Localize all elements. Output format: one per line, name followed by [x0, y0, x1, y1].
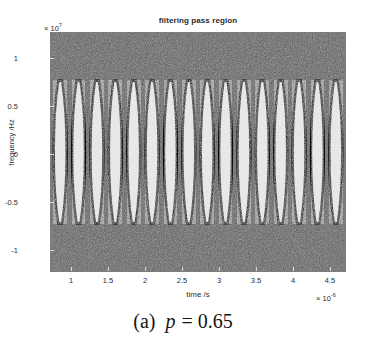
x-tick-mark-35	[256, 267, 257, 271]
plot-area	[50, 32, 346, 272]
x-tick-label-45: 4.5	[325, 276, 335, 285]
y-tick-mark-05	[50, 106, 54, 107]
y-tick-mark-0	[50, 154, 54, 155]
x-tick-label-4: 4	[291, 276, 295, 285]
y-tick-label-m1: -1	[11, 246, 18, 255]
y-tick-mark-m1	[50, 250, 54, 251]
y-tick-label-1: 1	[14, 54, 18, 63]
chart-title: filtering pass region	[50, 16, 346, 25]
figure-panel: filtering pass region × 107 × 10-6	[0, 0, 366, 354]
x-tick-label-25: 2.5	[177, 276, 187, 285]
y-tick-mark-1	[50, 58, 54, 59]
x-tick-mark-45	[330, 267, 331, 271]
x-tick-mark-4	[293, 267, 294, 271]
x-tick-mark-1	[71, 267, 72, 271]
x-tick-label-35: 3.5	[251, 276, 261, 285]
x-tick-label-3: 3	[217, 276, 221, 285]
y-axis-exponent-power: 7	[59, 22, 62, 28]
x-tick-label-2: 2	[143, 276, 147, 285]
x-tick-label-1: 1	[69, 276, 73, 285]
y-tick-label-m05: -0.5	[5, 198, 18, 207]
y-tick-mark-m05	[50, 202, 54, 203]
x-tick-mark-25	[182, 267, 183, 271]
caption-label: (a)	[133, 310, 164, 332]
y-axis-exponent: × 107	[44, 22, 62, 33]
x-tick-mark-15	[108, 267, 109, 271]
y-axis-label: frequency /Hz	[7, 103, 16, 183]
x-tick-mark-2	[145, 267, 146, 271]
pass-region-lenses	[51, 33, 345, 271]
x-tick-label-15: 1.5	[103, 276, 113, 285]
x-axis-label: time /s	[50, 290, 346, 299]
caption-equation: = 0.65	[181, 310, 232, 332]
caption-variable: p	[164, 310, 176, 332]
figure-caption: (a)p = 0.65	[0, 310, 366, 333]
x-tick-mark-3	[219, 267, 220, 271]
